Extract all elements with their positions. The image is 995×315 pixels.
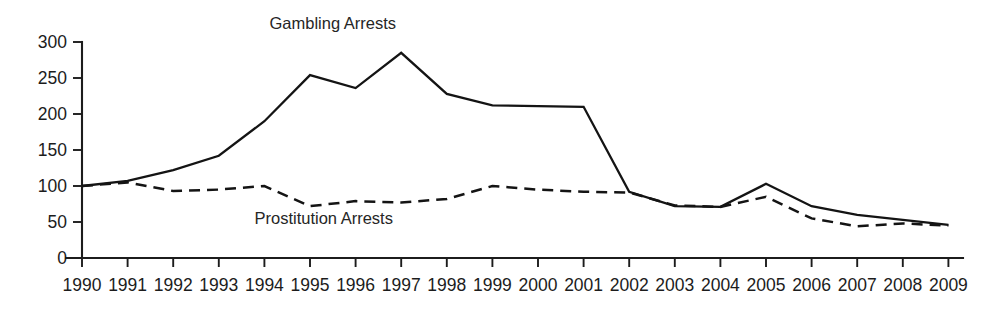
x-tick-label: 2003 (655, 275, 694, 295)
x-tick-label: 2008 (883, 275, 922, 295)
series-annotations: Gambling Arrests Prostitution Arrests (254, 14, 396, 227)
x-tick-label: 1991 (108, 275, 147, 295)
x-tick-label: 1992 (154, 275, 193, 295)
y-tick-labels: 050100150200250300 (38, 32, 67, 268)
x-tick-label: 1998 (427, 275, 466, 295)
x-tick-label: 2006 (792, 275, 831, 295)
data-series-group (82, 53, 948, 227)
x-tick-label: 2000 (519, 275, 558, 295)
x-tick-label: 1993 (199, 275, 238, 295)
annotation-gambling-arrests: Gambling Arrests (270, 14, 397, 32)
x-tick-label: 1990 (63, 275, 102, 295)
x-tick-label: 1995 (291, 275, 330, 295)
x-tick-label: 2009 (929, 275, 968, 295)
y-tick-marks (73, 42, 82, 258)
x-tick-label: 1997 (382, 275, 421, 295)
x-tick-label: 1996 (336, 275, 375, 295)
y-tick-label: 100 (38, 176, 67, 196)
x-tick-label: 1994 (245, 275, 284, 295)
series-line-prostitution-arrests (82, 182, 948, 226)
x-tick-label: 2004 (701, 275, 740, 295)
x-tick-labels: 1990199119921993199419951996199719981999… (63, 275, 968, 295)
y-tick-label: 200 (38, 104, 67, 124)
y-tick-label: 50 (48, 212, 68, 232)
y-tick-label: 300 (38, 32, 67, 52)
x-tick-label: 2002 (610, 275, 649, 295)
x-tick-label: 1999 (473, 275, 512, 295)
y-axis-group: 050100150200250300 (38, 32, 82, 268)
x-tick-label: 2007 (838, 275, 877, 295)
x-axis-group: 1990199119921993199419951996199719981999… (63, 258, 968, 295)
annotation-prostitution-arrests: Prostitution Arrests (254, 209, 392, 227)
x-tick-label: 2001 (564, 275, 603, 295)
x-tick-marks (82, 258, 948, 267)
y-tick-label: 150 (38, 140, 67, 160)
arrests-line-chart: 050100150200250300 199019911992199319941… (0, 0, 995, 315)
series-line-gambling-arrests (82, 53, 948, 225)
y-tick-label: 250 (38, 68, 67, 88)
x-tick-label: 2005 (747, 275, 786, 295)
chart-canvas: 050100150200250300 199019911992199319941… (0, 0, 995, 315)
